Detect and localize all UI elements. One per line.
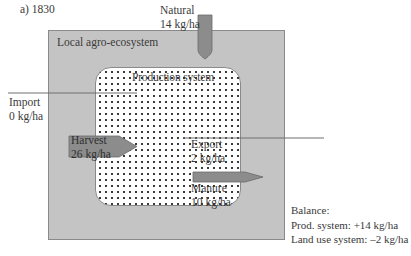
manure-value: 10 kg/ha bbox=[191, 196, 231, 210]
manure-flow-label: Manure 10 kg/ha bbox=[191, 182, 231, 209]
manure-label: Manure bbox=[191, 182, 231, 196]
balance-title: Balance: bbox=[291, 203, 408, 218]
import-flow-label: Import 0 kg/ha bbox=[9, 96, 43, 123]
natural-value: 14 kg/ha bbox=[160, 18, 200, 32]
export-label: Export bbox=[191, 138, 225, 152]
harvest-value: 26 kg/ha bbox=[71, 148, 111, 162]
manure-arrow-icon bbox=[193, 172, 263, 182]
natural-arrow-icon bbox=[198, 15, 212, 59]
harvest-label: Harvest bbox=[71, 134, 111, 148]
balance-summary: Balance: Prod. system: +14 kg/ha Land us… bbox=[291, 203, 408, 247]
import-label: Import bbox=[9, 96, 43, 110]
import-value: 0 kg/ha bbox=[9, 110, 43, 124]
natural-flow-label: Natural 14 kg/ha bbox=[160, 4, 200, 31]
balance-land-use-system: Land use system: –2 kg/ha bbox=[291, 232, 408, 247]
balance-prod-system: Prod. system: +14 kg/ha bbox=[291, 218, 408, 233]
export-flow-label: Export 2 kg/ha bbox=[191, 138, 225, 165]
natural-label: Natural bbox=[160, 4, 200, 18]
export-value: 2 kg/ha bbox=[191, 152, 225, 166]
harvest-flow-label: Harvest 26 kg/ha bbox=[71, 134, 111, 161]
